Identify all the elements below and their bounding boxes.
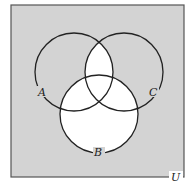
set-label-b: B [93, 146, 102, 159]
set-label-a: A [37, 86, 46, 99]
universe-label: U [171, 171, 181, 183]
venn-diagram: A C B U [0, 0, 192, 183]
set-label-c: C [149, 86, 158, 99]
